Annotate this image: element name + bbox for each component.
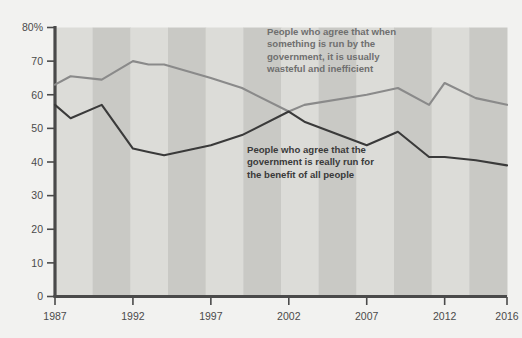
annotation-line: something is run by the [267, 38, 375, 49]
y-tick-label: 60 [31, 89, 43, 101]
y-tick-label: 30 [31, 189, 43, 201]
y-tick-label: 10 [31, 257, 43, 269]
plot-band [394, 28, 432, 297]
plot-band [130, 28, 168, 297]
plot-band [93, 28, 131, 297]
y-tick-label: 40 [31, 156, 43, 168]
y-tick-label: 20 [31, 223, 43, 235]
x-tick-label: 2002 [277, 310, 301, 322]
annotation-line: the benefit of all people [247, 169, 354, 180]
x-tick-label: 1997 [199, 310, 223, 322]
x-tick-label: 1987 [43, 310, 67, 322]
plot-band [55, 28, 93, 297]
annotation-line: People who agree that the [247, 144, 366, 155]
y-tick-label: 80% [22, 21, 43, 33]
annotation-line: wasteful and inefficient [266, 63, 374, 74]
x-tick-label: 2012 [433, 310, 457, 322]
line-chart: 01020304050607080% 198719921997200220072… [0, 0, 522, 338]
x-tick-label: 2007 [355, 310, 379, 322]
annotation-line: People who agree that when [267, 26, 396, 37]
x-tick-label: 1992 [121, 310, 145, 322]
plot-band [206, 28, 244, 297]
y-tick-label: 50 [31, 122, 43, 134]
annotation-line: government is really run for [247, 156, 374, 167]
annotation-line: government, it is usually [267, 51, 380, 62]
x-tick-label: 2016 [495, 310, 519, 322]
chart-container: 01020304050607080% 198719921997200220072… [0, 0, 522, 338]
plot-band [432, 28, 470, 297]
y-tick-label: 70 [31, 55, 43, 67]
y-tick-label: 0 [37, 290, 43, 302]
